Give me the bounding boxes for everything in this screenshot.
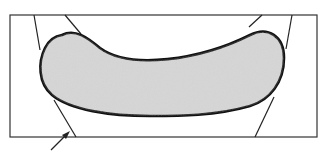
guide-line-top-right-inner bbox=[249, 15, 262, 27]
pointer-arrow-icon bbox=[51, 131, 70, 150]
guide-line-top-right-outer bbox=[286, 15, 292, 49]
kidney-stipple bbox=[40, 32, 284, 116]
diagram-canvas bbox=[0, 0, 325, 157]
guide-line-top-left-outer bbox=[34, 15, 40, 50]
guide-line-top-left-inner bbox=[65, 15, 81, 34]
